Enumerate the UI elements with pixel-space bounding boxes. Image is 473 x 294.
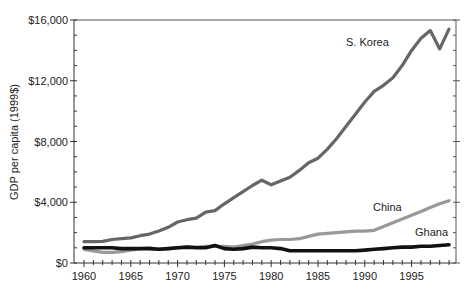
x-tick-label: 1960 [72, 270, 96, 282]
x-tick-label: 1990 [353, 270, 377, 282]
y-tick-label: $4,000 [34, 196, 68, 208]
y-axis: $0$4,000$8,000$12,000$16,000 [28, 14, 460, 269]
y-tick-label: $16,000 [28, 14, 68, 26]
y-axis-title: GDP per capita (1999$) [8, 84, 20, 200]
label-china: China [373, 201, 403, 213]
label-s-korea: S. Korea [346, 36, 390, 48]
x-tick-label: 1995 [399, 270, 423, 282]
plot-frame [74, 20, 456, 263]
x-tick-label: 1970 [165, 270, 189, 282]
y-tick-label: $0 [56, 257, 68, 269]
y-tick-label: $8,000 [34, 136, 68, 148]
x-tick-label: 1980 [259, 270, 283, 282]
x-tick-label: 1985 [306, 270, 330, 282]
x-tick-label: 1975 [212, 270, 236, 282]
series-line-ghana [84, 245, 449, 251]
series-lines [84, 29, 449, 252]
gdp-line-chart: $0$4,000$8,000$12,000$16,000 19601965197… [0, 0, 473, 294]
label-ghana: Ghana [415, 226, 449, 238]
x-tick-label: 1965 [119, 270, 143, 282]
y-tick-label: $12,000 [28, 75, 68, 87]
